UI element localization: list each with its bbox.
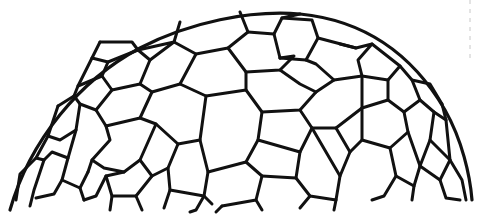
mesh-edge [100, 42, 138, 50]
mesh-edge [36, 180, 62, 198]
mesh-edge [168, 140, 208, 196]
mesh-edge [246, 80, 334, 112]
mesh-edge [256, 200, 262, 210]
mesh-edge [164, 190, 170, 208]
mesh-edge [420, 100, 434, 166]
mesh-edge [190, 196, 204, 212]
mesh-edge [204, 196, 212, 204]
mesh-edge [92, 42, 138, 62]
mesh-edge [258, 110, 312, 152]
hexagon-mesh [16, 12, 466, 212]
mesh-edge [106, 176, 152, 196]
mesh-edge [140, 160, 168, 176]
mesh-edge [174, 12, 248, 54]
mesh-edge [340, 76, 362, 176]
geodesic-dome-figure: Hemispherical dome tiled with irregular … [0, 0, 480, 216]
mesh-edge [216, 206, 222, 212]
mesh-edge [140, 84, 180, 92]
mesh-edge [280, 70, 316, 92]
mesh-edge [262, 152, 300, 178]
mesh-edge [110, 196, 112, 210]
mesh-edge [362, 100, 388, 108]
mesh-edge [80, 188, 84, 200]
dome-drawing [0, 0, 480, 216]
mesh-edge [450, 160, 466, 200]
mesh-edge [336, 108, 362, 128]
mesh-edge [372, 176, 396, 200]
mesh-edge [388, 80, 420, 112]
mesh-edge [300, 196, 310, 208]
mesh-edge [296, 128, 340, 200]
mesh-edge [228, 48, 294, 72]
mesh-edge [74, 96, 96, 110]
mesh-edge [136, 196, 142, 210]
mesh-edge [274, 34, 280, 58]
mesh-edge [334, 200, 336, 210]
mesh-edge [412, 186, 414, 200]
mesh-edge [440, 180, 460, 200]
mesh-edge [400, 66, 442, 104]
mesh-edge [362, 112, 408, 148]
mesh-edge [280, 18, 318, 60]
mesh-edge [340, 44, 356, 48]
mesh-edge [62, 158, 88, 188]
mesh-edge [248, 14, 300, 34]
